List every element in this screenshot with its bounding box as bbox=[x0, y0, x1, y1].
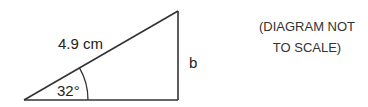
side-b-label: b bbox=[189, 55, 197, 70]
angle-arc bbox=[80, 68, 89, 100]
angle-label: 32° bbox=[57, 83, 80, 98]
note-line-1: (DIAGRAM NOT bbox=[250, 20, 364, 33]
hypotenuse-edge bbox=[24, 11, 178, 100]
note-line-2: TO SCALE) bbox=[250, 41, 364, 54]
not-to-scale-note: (DIAGRAM NOT TO SCALE) bbox=[250, 20, 364, 62]
triangle bbox=[24, 11, 178, 100]
hypotenuse-label: 4.9 cm bbox=[58, 36, 103, 51]
